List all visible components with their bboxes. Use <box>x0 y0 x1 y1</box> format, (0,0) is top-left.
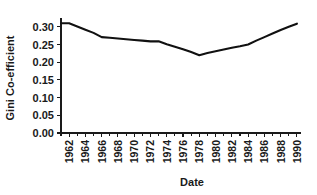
y-tick-label: 0.20 <box>33 56 54 68</box>
x-tick-label: 1966 <box>96 140 108 164</box>
x-tick-label: 1976 <box>177 140 189 164</box>
x-tick-label: 1990 <box>291 140 303 164</box>
line-chart: 0.000.050.100.150.200.250.30 19621964196… <box>0 0 317 195</box>
x-tick-label: 1980 <box>210 140 222 164</box>
x-tick-label: 1974 <box>161 140 173 164</box>
x-axis-tick-labels: 1962196419661968197019721974197619781980… <box>63 140 303 164</box>
y-tick-label: 0.15 <box>33 74 54 86</box>
x-axis-title: Date <box>180 176 204 188</box>
x-tick-label: 1962 <box>63 140 75 164</box>
y-tick-label: 0.00 <box>33 127 54 139</box>
x-tick-label: 1968 <box>112 140 124 164</box>
y-axis-tick-labels: 0.000.050.100.150.200.250.30 <box>33 21 54 139</box>
x-tick-label: 1964 <box>79 140 91 164</box>
x-tick-label: 1986 <box>258 140 270 164</box>
x-tick-label: 1978 <box>193 140 205 164</box>
data-series-line <box>61 23 297 55</box>
x-tick-label: 1970 <box>128 140 140 164</box>
x-tick-label: 1982 <box>226 140 238 164</box>
x-tick-label: 1972 <box>144 140 156 164</box>
y-tick-label: 0.05 <box>33 109 54 121</box>
chart-figure: 0.000.050.100.150.200.250.30 19621964196… <box>0 0 317 195</box>
x-tick-label: 1984 <box>242 140 254 164</box>
y-tick-label: 0.30 <box>33 21 54 33</box>
y-axis-title: Gini Co-efficient <box>4 35 16 120</box>
y-tick-label: 0.25 <box>33 39 54 51</box>
y-tick-label: 0.10 <box>33 92 54 104</box>
x-tick-label: 1988 <box>275 140 287 164</box>
